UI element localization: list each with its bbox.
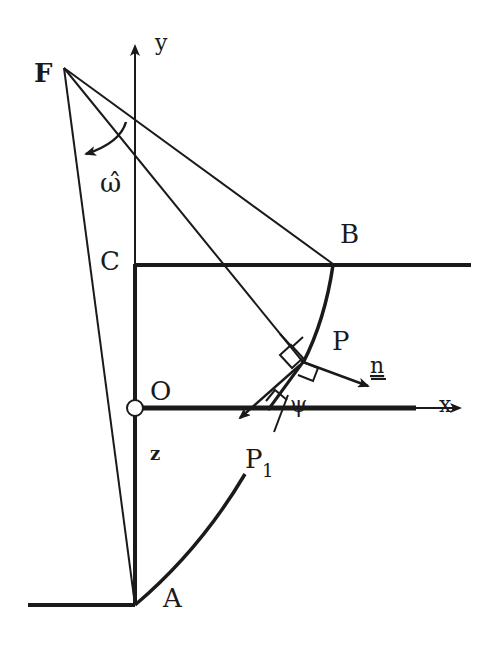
curve-b-p bbox=[303, 265, 333, 363]
label-omega: ω̂ bbox=[100, 168, 121, 198]
label-c: C bbox=[100, 246, 120, 276]
label-a: A bbox=[162, 583, 183, 613]
label-b: B bbox=[340, 219, 359, 249]
label-p1: P bbox=[245, 444, 263, 474]
curve-a-p1 bbox=[135, 474, 245, 605]
label-p1-subscript: 1 bbox=[262, 460, 273, 481]
label-y: y bbox=[154, 30, 168, 55]
label-p: P bbox=[332, 326, 350, 356]
diagram: F y ω̂ B C P n O z ψ x P 1 A bbox=[0, 0, 497, 654]
label-z: z bbox=[150, 443, 160, 464]
label-o: O bbox=[150, 376, 171, 406]
label-x: x bbox=[439, 392, 452, 417]
label-psi: ψ bbox=[290, 392, 307, 417]
label-n: n bbox=[370, 353, 384, 378]
right-angle-mark-1b bbox=[280, 325, 291, 334]
label-f: F bbox=[34, 58, 53, 88]
origin-z-axis-icon bbox=[127, 400, 143, 416]
